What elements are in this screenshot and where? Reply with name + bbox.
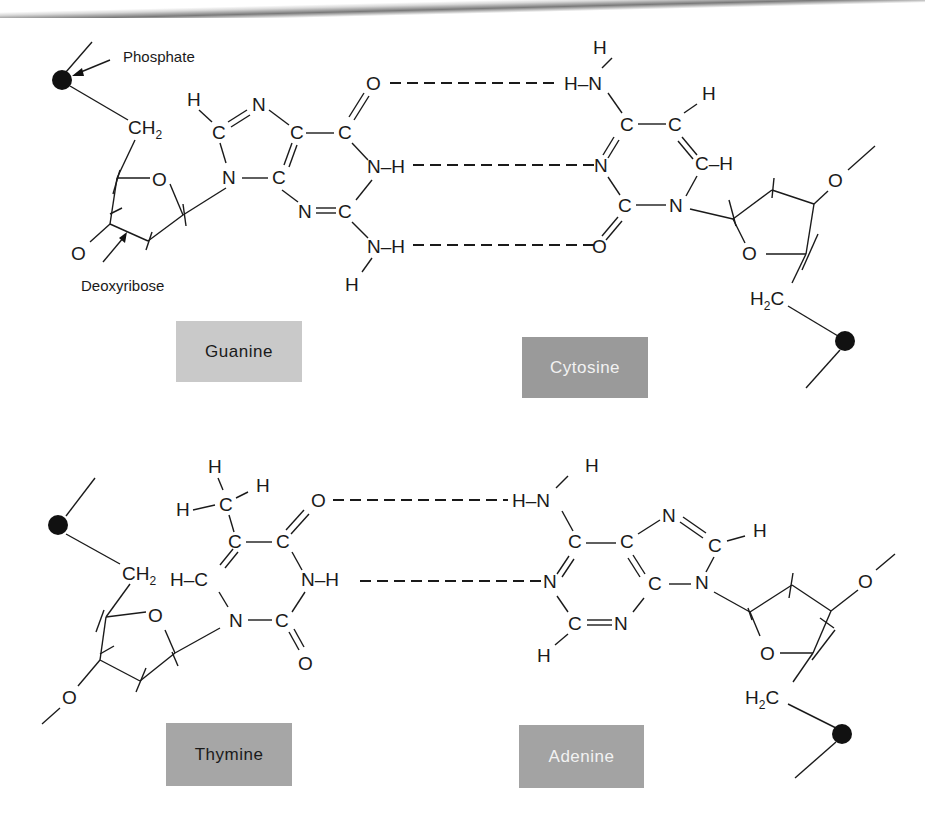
svg-text:O: O [148,605,163,626]
cytosine-nucleotide: H–N H C C H C–H N C N O O O [564,37,875,388]
guanine-label: Guanine [176,321,302,382]
svg-text:N–H: N–H [301,569,339,590]
svg-text:O: O [742,243,757,264]
svg-text:C: C [620,114,634,135]
svg-text:N: N [614,613,628,634]
svg-text:C: C [212,122,226,143]
svg-text:H: H [256,475,270,496]
svg-text:H: H [593,37,607,58]
svg-text:C: C [275,610,289,631]
svg-text:H: H [187,89,201,110]
thymine-nucleotide: CH2 O O H H C H C C O N–H [42,456,339,724]
phosphate-icon [52,70,72,90]
svg-text:N: N [298,201,312,222]
svg-text:N: N [222,167,236,188]
svg-text:CH2: CH2 [122,563,156,588]
svg-text:H2C: H2C [750,288,784,313]
svg-text:N: N [669,195,683,216]
svg-text:C: C [668,114,682,135]
svg-text:C: C [708,535,722,556]
adenine-label: Adenine [519,725,644,788]
svg-text:O: O [71,243,86,264]
svg-text:C: C [618,195,632,216]
svg-text:O: O [311,490,326,511]
phosphate-icon [48,515,68,535]
svg-text:O: O [62,687,77,708]
svg-text:N: N [252,94,266,115]
svg-text:C: C [648,573,662,594]
svg-text:N: N [229,610,243,631]
svg-text:H–N: H–N [564,73,602,94]
svg-text:C: C [620,531,634,552]
guanine-nucleotide: Phosphate CH2 O O Deoxyribose H C N [52,42,405,295]
svg-text:C: C [338,122,352,143]
thymine-label: Thymine [166,723,292,786]
svg-text:N–H: N–H [367,236,405,257]
svg-text:C: C [228,531,242,552]
phosphate-icon [835,331,855,351]
svg-text:CH2: CH2 [128,117,162,142]
svg-text:H: H [585,455,599,476]
svg-text:H: H [345,274,359,295]
svg-text:C: C [219,494,233,515]
svg-text:C: C [338,201,352,222]
svg-text:C: C [276,531,290,552]
svg-text:H: H [537,645,551,666]
svg-text:C: C [568,531,582,552]
svg-text:H: H [208,456,222,477]
svg-text:O: O [152,169,167,190]
svg-text:C: C [272,167,286,188]
svg-text:C: C [290,122,304,143]
svg-text:H–N: H–N [512,490,550,511]
svg-text:O: O [592,236,607,257]
svg-text:N: N [662,505,676,526]
svg-text:N: N [543,571,557,592]
phosphate-icon [832,724,852,744]
hydrogen-bonds-ta [333,500,545,581]
svg-text:H: H [753,520,767,541]
svg-text:C: C [568,613,582,634]
svg-text:N: N [594,155,608,176]
svg-text:H: H [702,83,716,104]
svg-text:N–H: N–H [367,156,405,177]
deoxyribose-label: Deoxyribose [81,277,164,294]
cytosine-label: Cytosine [522,337,648,398]
phosphate-label: Phosphate [123,48,195,65]
svg-text:O: O [366,73,381,94]
hydrogen-bonds-gc [390,83,595,245]
svg-text:O: O [828,170,843,191]
svg-text:N: N [695,572,709,593]
svg-text:H2C: H2C [745,687,779,712]
svg-text:O: O [760,643,775,664]
dna-base-pairs-diagram: Phosphate CH2 O O Deoxyribose H C N [0,0,925,814]
svg-text:O: O [298,653,313,674]
svg-text:C–H: C–H [695,153,733,174]
svg-text:O: O [858,571,873,592]
svg-text:H–C: H–C [170,569,208,590]
svg-text:H: H [176,499,190,520]
